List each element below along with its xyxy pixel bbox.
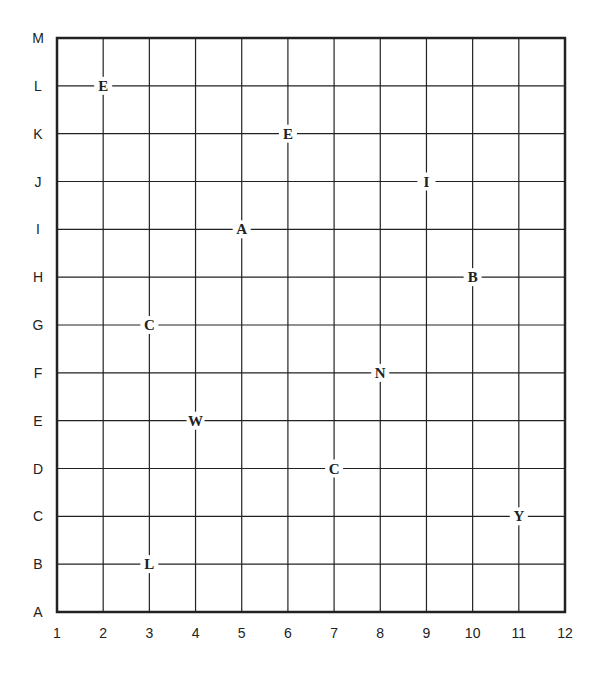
row-label-B: B <box>33 556 42 572</box>
grid-letter-w-4e: W <box>188 413 203 429</box>
row-label-M: M <box>32 30 44 46</box>
grid-letter-n-8f: N <box>375 365 386 381</box>
column-label-10: 10 <box>465 625 481 641</box>
row-label-L: L <box>34 78 42 94</box>
column-label-11: 11 <box>512 625 527 641</box>
grid-letter-c-3g: C <box>144 317 155 333</box>
grid-letter-a-5i: A <box>236 221 247 237</box>
row-label-D: D <box>33 461 43 477</box>
row-label-E: E <box>33 413 42 429</box>
grid-letter-b-10h: B <box>468 269 478 285</box>
row-label-F: F <box>34 365 43 381</box>
column-label-12: 12 <box>557 625 573 641</box>
grid-letter-e-6k: E <box>283 126 293 142</box>
grid-letter-i-9j: I <box>424 174 430 190</box>
row-labels: MLKJIHGFEDCBA <box>32 30 44 620</box>
row-label-J: J <box>35 174 42 190</box>
column-label-9: 9 <box>423 625 431 641</box>
row-label-A: A <box>33 604 43 620</box>
column-labels: 123456789101112 <box>53 625 573 641</box>
column-label-6: 6 <box>284 625 292 641</box>
column-label-8: 8 <box>376 625 384 641</box>
grid-lines <box>57 38 565 612</box>
grid-letter-y-11c: Y <box>513 508 524 524</box>
coordinate-grid: MLKJIHGFEDCBA 123456789101112 EEIABCNWCY… <box>0 0 603 677</box>
row-label-I: I <box>36 221 40 237</box>
grid-letter-l-3b: L <box>144 556 154 572</box>
column-label-3: 3 <box>145 625 153 641</box>
grid-letter-e-2l: E <box>98 78 108 94</box>
column-label-2: 2 <box>99 625 107 641</box>
grid-letter-c-7d: C <box>329 461 340 477</box>
column-label-7: 7 <box>330 625 338 641</box>
row-label-G: G <box>33 317 44 333</box>
column-label-4: 4 <box>192 625 200 641</box>
column-label-1: 1 <box>53 625 61 641</box>
column-label-5: 5 <box>238 625 246 641</box>
row-label-K: K <box>33 126 43 142</box>
row-label-H: H <box>33 269 43 285</box>
row-label-C: C <box>33 508 43 524</box>
